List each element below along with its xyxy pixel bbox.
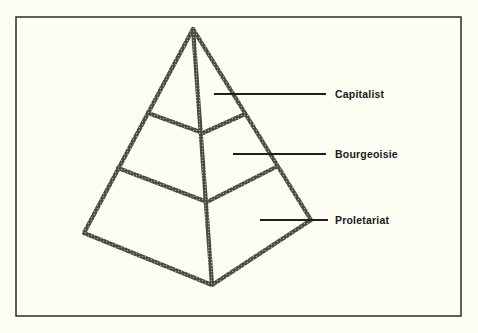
pyramid-shape <box>84 29 311 285</box>
pyramid-tier-divider-lower <box>118 167 276 202</box>
tier-label-proletariat: Proletariat <box>335 214 389 226</box>
diagram-svg <box>0 0 478 333</box>
tier-label-capitalist: Capitalist <box>335 88 384 100</box>
tier-label-bourgeoisie: Bourgeoisie <box>335 148 398 160</box>
diagram-frame <box>16 17 461 316</box>
pyramid-center-edge <box>193 29 212 285</box>
pyramid-diagram: Capitalist Bourgeoisie Proletariat <box>0 0 478 333</box>
pyramid-tier-divider-upper <box>148 113 245 133</box>
